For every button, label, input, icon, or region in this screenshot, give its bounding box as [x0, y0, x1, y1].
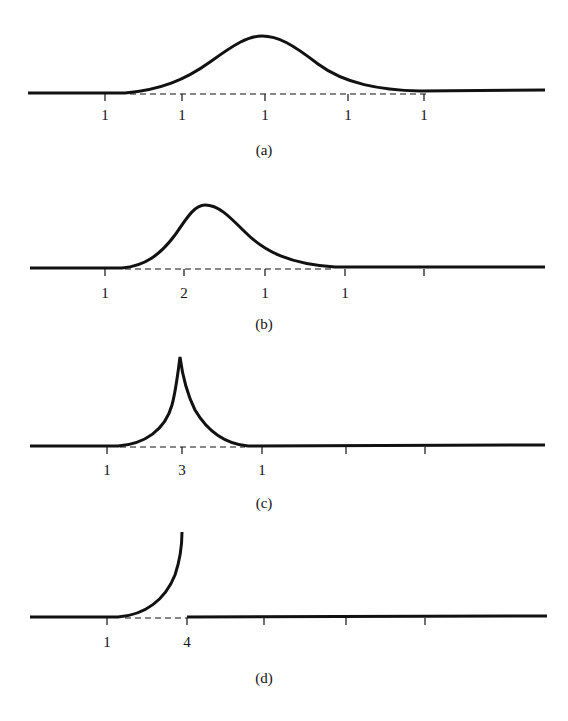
panel-caption: (d): [255, 670, 273, 687]
tick-label: 1: [103, 634, 111, 650]
figure-canvas: 1 1 1 1 1 (a) 1 2 1 1 (b) 1 3 1 (c): [0, 0, 568, 721]
panel-caption: (b): [255, 316, 273, 333]
curve-cusp: [30, 357, 545, 446]
ticks: [105, 94, 424, 101]
tick-label: 3: [178, 462, 186, 478]
tick-label: 2: [180, 285, 188, 301]
curve-gaussian-narrow: [30, 205, 545, 268]
tick-label: 1: [344, 107, 352, 123]
panel-caption: (a): [256, 142, 273, 159]
tick-label: 1: [258, 462, 266, 478]
tick-label: 1: [101, 107, 109, 123]
panel-b: 1 2 1 1 (b): [30, 205, 545, 333]
panel-d: 1 4 (d): [30, 532, 547, 687]
tick-label: 1: [101, 285, 109, 301]
tick-label: 1: [103, 462, 111, 478]
ticks: [107, 447, 425, 454]
panel-a: 1 1 1 1 1 (a): [28, 36, 545, 159]
baseline-solid-right: [187, 616, 547, 617]
tick-label: 1: [341, 285, 349, 301]
ticks: [105, 269, 424, 276]
curve-gaussian-wide: [28, 36, 545, 93]
tick-label: 1: [261, 107, 269, 123]
tick-label: 4: [183, 634, 191, 650]
panel-caption: (c): [256, 495, 273, 512]
curve-divergent: [30, 532, 182, 617]
tick-label: 1: [261, 285, 269, 301]
tick-label: 1: [420, 107, 428, 123]
tick-label: 1: [178, 107, 186, 123]
panel-c: 1 3 1 (c): [30, 357, 545, 512]
ticks: [107, 618, 425, 625]
